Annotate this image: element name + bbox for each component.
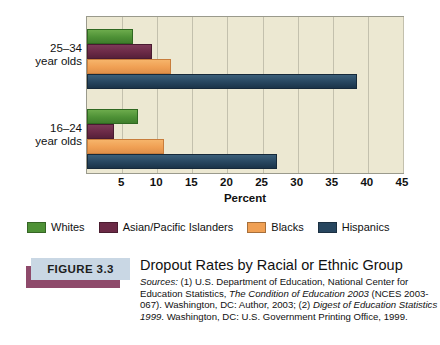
bar-whites-16-24 — [87, 109, 138, 124]
x-tick-label-45: 45 — [396, 176, 409, 188]
figure-badge-box: FIGURE 3.3 — [31, 258, 130, 280]
x-tick-label-40: 40 — [360, 176, 373, 188]
gridline-45 — [403, 17, 404, 173]
x-axis-tick-labels: 51015202530354045 — [86, 176, 404, 192]
legend-swatch-icon — [318, 222, 337, 233]
gridline-40 — [368, 17, 369, 173]
gridline-25 — [263, 17, 264, 173]
gridline-15 — [192, 17, 193, 173]
figure-title: Dropout Rates by Racial or Ethnic Group — [140, 256, 440, 274]
sources-label: Sources: — [140, 276, 181, 287]
x-tick-label-10: 10 — [150, 176, 163, 188]
figure-caption-body: Dropout Rates by Racial or Ethnic Group … — [140, 256, 440, 322]
figure-badge: FIGURE 3.3 — [26, 258, 130, 288]
category-label-16-24-line1: 16–24 — [20, 122, 82, 135]
gridline-35 — [333, 17, 334, 173]
legend-label: Asian/Pacific Islanders — [123, 221, 234, 233]
figure-badge-label: FIGURE 3.3 — [47, 263, 114, 275]
bar-hispanics-25-34 — [87, 74, 357, 89]
bar-asian-25-34 — [87, 44, 152, 59]
x-tick-label-35: 35 — [325, 176, 338, 188]
gridline-30 — [298, 17, 299, 173]
legend-item-hispanics[interactable]: Hispanics — [318, 221, 390, 233]
category-label-16-24-line2: year olds — [20, 135, 82, 148]
x-tick-label-15: 15 — [185, 176, 198, 188]
category-axis-labels: 25–34 year olds 16–24 year olds — [18, 16, 82, 174]
source-text: (2) — [299, 299, 313, 310]
category-label-25-34-line1: 25–34 — [20, 42, 82, 55]
chart-legend: WhitesAsian/Pacific IslandersBlacksHispa… — [27, 218, 427, 236]
legend-item-whites[interactable]: Whites — [27, 221, 85, 233]
gridline-20 — [227, 17, 228, 173]
source-italic-text: The Condition of Education 2003 — [229, 288, 371, 299]
x-tick-label-25: 25 — [255, 176, 268, 188]
legend-item-asian-pacific-islanders[interactable]: Asian/Pacific Islanders — [99, 221, 234, 233]
plot-area — [86, 16, 404, 174]
chart-figure: 25–34 year olds 16–24 year olds 51015202… — [0, 0, 436, 212]
x-axis-title: Percent — [86, 192, 404, 204]
x-tick-label-5: 5 — [118, 176, 124, 188]
category-label-16-24: 16–24 year olds — [20, 122, 82, 148]
category-label-25-34: 25–34 year olds — [20, 42, 82, 68]
legend-swatch-icon — [27, 222, 46, 233]
x-tick-label-20: 20 — [220, 176, 233, 188]
bar-blacks-16-24 — [87, 139, 164, 154]
figure-sources: Sources: (1) U.S. Department of Educatio… — [140, 276, 440, 322]
bar-whites-25-34 — [87, 29, 133, 44]
category-label-25-34-line2: year olds — [20, 55, 82, 68]
legend-label: Whites — [51, 221, 85, 233]
legend-swatch-icon — [99, 222, 118, 233]
bar-asian-16-24 — [87, 124, 114, 139]
bar-blacks-25-34 — [87, 59, 171, 74]
legend-swatch-icon — [247, 222, 266, 233]
source-text: (1) U.S. Department of Education, Nation… — [181, 276, 398, 287]
legend-item-blacks[interactable]: Blacks — [247, 221, 303, 233]
bar-hispanics-16-24 — [87, 154, 277, 169]
legend-label: Hispanics — [342, 221, 390, 233]
legend-label: Blacks — [271, 221, 303, 233]
source-text: . Washington, DC: U.S. — [161, 311, 262, 322]
x-tick-label-30: 30 — [290, 176, 303, 188]
source-text: Government Printing Office, 1999. — [263, 311, 408, 322]
